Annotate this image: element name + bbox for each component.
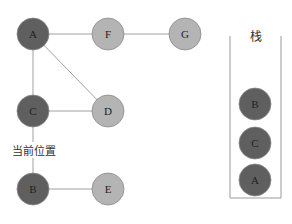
svg-text:C: C xyxy=(29,105,36,117)
stack-item-c: C xyxy=(239,127,271,159)
svg-text:F: F xyxy=(105,28,111,40)
stack-items: BCA xyxy=(239,88,271,196)
svg-text:A: A xyxy=(29,28,37,40)
svg-text:B: B xyxy=(29,183,36,195)
node-b: B xyxy=(17,173,49,205)
node-e: E xyxy=(92,173,124,205)
stack-container: BCA xyxy=(230,36,281,198)
node-c: C xyxy=(17,95,49,127)
node-d: D xyxy=(92,95,124,127)
current-position-label: 当前位置 xyxy=(12,142,56,158)
svg-text:C: C xyxy=(251,137,258,149)
svg-text:E: E xyxy=(105,183,112,195)
stack-item-a: A xyxy=(239,164,271,196)
svg-text:B: B xyxy=(251,98,258,110)
svg-text:D: D xyxy=(104,105,112,117)
node-a: A xyxy=(17,18,49,50)
svg-text:A: A xyxy=(251,174,259,186)
svg-text:G: G xyxy=(181,28,189,40)
node-f: F xyxy=(92,18,124,50)
stack-item-b: B xyxy=(239,88,271,120)
stack-title: 栈 xyxy=(250,27,262,45)
node-g: G xyxy=(169,18,201,50)
dfs-diagram: AFGCDBE BCA xyxy=(0,0,292,224)
